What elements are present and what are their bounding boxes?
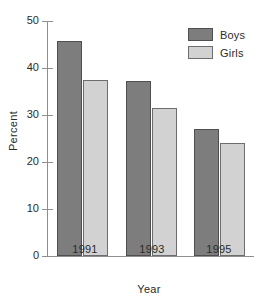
- bar-chart: Percent 01020304050 1991 1993 1995 Year …: [0, 0, 263, 303]
- x-axis-line: [47, 256, 254, 257]
- bar-girls-1993: [152, 108, 177, 256]
- y-tick-label: 10: [27, 202, 39, 214]
- legend-swatch-boys: [188, 28, 213, 41]
- y-tick-label: 0: [33, 249, 39, 261]
- x-axis-title: Year: [44, 283, 254, 295]
- bar-girls-1991: [83, 80, 108, 256]
- y-axis-title: Percent: [7, 96, 19, 166]
- x-tick-label-1993: 1993: [122, 243, 182, 255]
- y-tick-mark: [42, 256, 53, 257]
- x-tick-label-1991: 1991: [55, 243, 115, 255]
- legend-item-girls: Girls: [188, 46, 245, 59]
- bar-boys-1993: [126, 81, 151, 256]
- legend-label-boys: Boys: [220, 29, 245, 41]
- y-tick-label: 30: [27, 108, 39, 120]
- legend-item-boys: Boys: [188, 28, 245, 41]
- y-tick-label: 50: [27, 14, 39, 26]
- bar-boys-1991: [57, 41, 82, 256]
- x-tick-label-1995: 1995: [189, 243, 249, 255]
- legend-swatch-girls: [188, 46, 213, 59]
- legend: Boys Girls: [188, 28, 245, 59]
- y-tick-label: 20: [27, 155, 39, 167]
- legend-label-girls: Girls: [220, 47, 244, 59]
- bar-boys-1995: [194, 129, 219, 256]
- y-tick-label: 40: [27, 61, 39, 73]
- bar-girls-1995: [220, 143, 245, 256]
